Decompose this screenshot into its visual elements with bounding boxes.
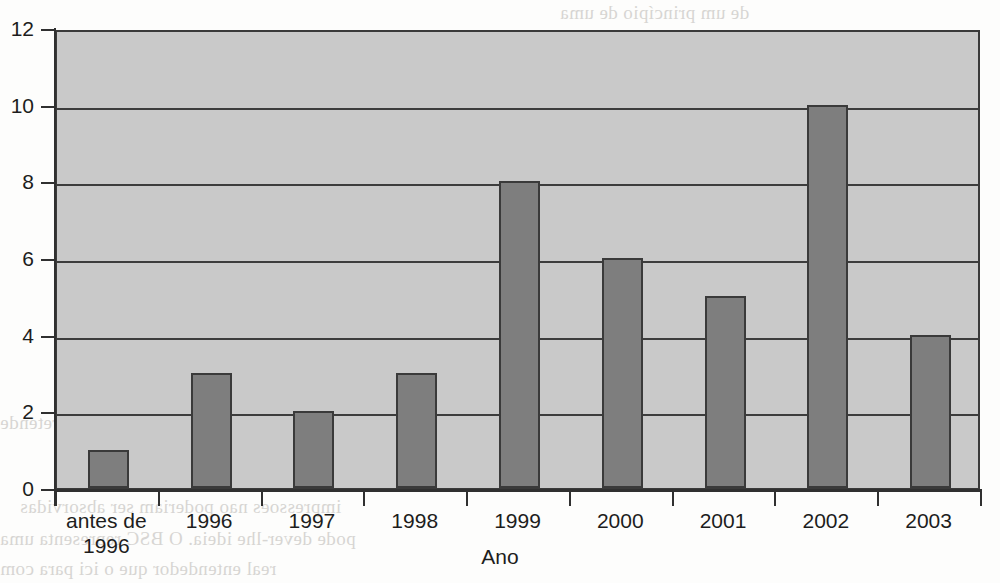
bar[interactable]: [191, 373, 232, 488]
x-axis-tick-label-line: 2002: [774, 508, 877, 533]
bar[interactable]: [293, 411, 334, 488]
y-axis-tick: [41, 182, 54, 184]
x-axis-line: [54, 489, 982, 492]
y-axis-tick: [41, 259, 54, 261]
y-axis-tick: [41, 412, 54, 414]
y-axis-line: [54, 28, 56, 506]
x-axis-tick-label-line: 1997: [261, 508, 364, 533]
y-axis-tick: [41, 336, 54, 338]
y-axis-tick: [41, 106, 54, 108]
bar-slot: [776, 32, 879, 488]
x-axis-tick-label-line: 2001: [672, 508, 775, 533]
x-axis-tick: [55, 492, 57, 506]
bar-slot: [879, 32, 982, 488]
x-axis-tick: [363, 492, 365, 506]
scanned-chart-page: de um princípio de uma apresentado relat…: [0, 0, 1000, 583]
x-axis-title: Ano: [0, 545, 1000, 569]
y-axis-tick-label: 10: [0, 94, 34, 118]
x-axis-tick-label: 1999: [466, 508, 569, 533]
bar-slot: [365, 32, 468, 488]
x-axis-tick: [466, 492, 468, 506]
bars-group: [57, 32, 978, 488]
x-axis-tick-label: 2000: [569, 508, 672, 533]
y-axis-tick: [41, 489, 54, 491]
x-axis-tick: [261, 492, 263, 506]
bar-slot: [57, 32, 160, 488]
x-axis-tick-label: 2003: [877, 508, 980, 533]
bar[interactable]: [705, 296, 746, 488]
x-axis-tick-label-line: 1996: [158, 508, 261, 533]
bar[interactable]: [807, 105, 848, 488]
y-axis-tick: [41, 29, 54, 31]
x-axis-tick-label-line: 1998: [363, 508, 466, 533]
y-axis-tick-label: 6: [0, 247, 34, 271]
x-axis-tick-label-line: antes de: [55, 508, 158, 533]
chart-plot-area: [55, 30, 980, 490]
bar[interactable]: [499, 181, 540, 488]
x-axis-tick-label-line: 2000: [569, 508, 672, 533]
bar-slot: [263, 32, 366, 488]
x-axis-tick: [877, 492, 879, 506]
x-axis-tick-label: 1998: [363, 508, 466, 533]
x-axis-tick-label-line: 1999: [466, 508, 569, 533]
x-axis-tick: [672, 492, 674, 506]
y-axis-tick-label: 0: [0, 477, 34, 501]
x-axis-tick-label: 1997: [261, 508, 364, 533]
bar[interactable]: [910, 335, 951, 488]
bar-slot: [160, 32, 263, 488]
bar-slot: [571, 32, 674, 488]
x-axis-tick-label: 2002: [774, 508, 877, 533]
x-axis-tick: [774, 492, 776, 506]
bleed-line: de um princípio de uma: [560, 2, 749, 24]
y-axis-tick-label: 2: [0, 400, 34, 424]
y-axis-tick-label: 8: [0, 170, 34, 194]
bar[interactable]: [602, 258, 643, 488]
bar-slot: [468, 32, 571, 488]
y-axis-tick-label: 12: [0, 17, 34, 41]
bar[interactable]: [396, 373, 437, 488]
x-axis-tick-label: 1996: [158, 508, 261, 533]
x-axis-tick-label: 2001: [672, 508, 775, 533]
bar-slot: [674, 32, 777, 488]
x-axis-tick: [980, 492, 982, 506]
x-axis-tick: [158, 492, 160, 506]
bar[interactable]: [88, 450, 129, 488]
x-axis-tick-label-line: 2003: [877, 508, 980, 533]
x-axis-tick: [569, 492, 571, 506]
y-axis-tick-label: 4: [0, 324, 34, 348]
